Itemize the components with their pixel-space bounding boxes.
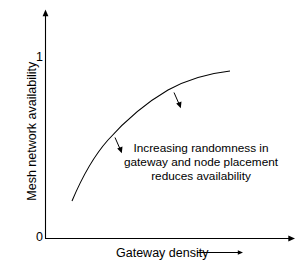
chart-figure: 1 0 Mesh network availability Gateway de… (0, 0, 305, 272)
chart-annotation-text: Increasing randomness in gateway and nod… (118, 141, 284, 184)
y-axis-tick-label-0: 0 (31, 231, 43, 244)
chart-annotation-line-3: reduces availability (118, 169, 284, 183)
y-axis-arrowhead (43, 10, 49, 17)
x-axis-title: Gateway density (116, 247, 208, 260)
x-axis-label-arrow-head (238, 250, 243, 254)
chart-annotation-line-2: gateway and node placement (118, 155, 284, 169)
y-axis-title: Mesh network availability (26, 36, 39, 226)
chart-annotation-line-1: Increasing randomness in (118, 141, 284, 155)
chart-plot-area (0, 0, 305, 272)
x-axis-arrowhead (288, 236, 295, 242)
